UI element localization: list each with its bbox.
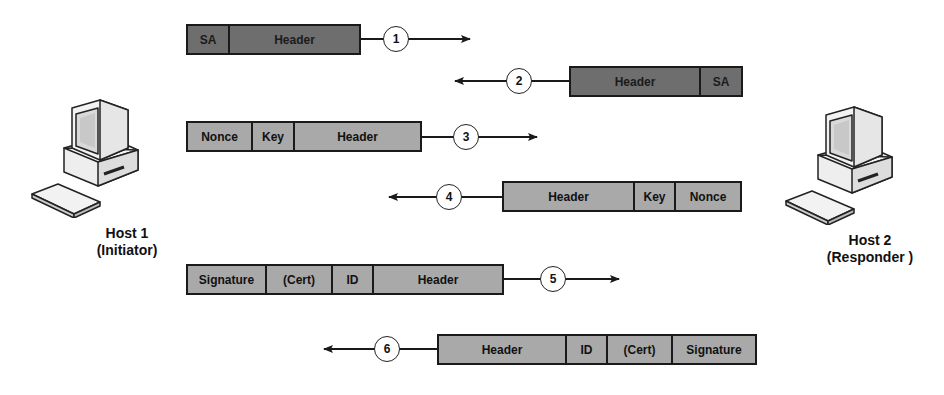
message-2-packet: Header SA <box>569 66 743 97</box>
field-header: Header <box>439 336 567 363</box>
computer-icon <box>782 105 897 225</box>
message-6-packet: Header ID (Cert) Signature <box>437 334 757 365</box>
field-header: Header <box>571 68 701 95</box>
host-1-role: (Initiator) <box>72 242 182 259</box>
computer-icon <box>28 98 143 218</box>
step-5-badge: 5 <box>540 266 566 292</box>
field-header: Header <box>504 183 635 210</box>
field-signature: Signature <box>673 336 755 363</box>
host-2-label: Host 2 (Responder ) <box>810 232 930 266</box>
field-key: Key <box>635 183 676 210</box>
field-sa: SA <box>701 68 741 95</box>
message-5-packet: Signature (Cert) ID Header <box>186 264 504 295</box>
step-2-badge: 2 <box>506 68 532 94</box>
field-signature: Signature <box>188 266 267 293</box>
step-4-badge: 4 <box>436 184 462 210</box>
field-key: Key <box>253 123 295 150</box>
step-3-badge: 3 <box>453 124 479 150</box>
host-1-name: Host 1 <box>72 225 182 242</box>
message-4-packet: Header Key Nonce <box>502 181 742 212</box>
field-sa: SA <box>188 26 230 53</box>
step-1-badge: 1 <box>383 26 409 52</box>
step-6-badge: 6 <box>374 336 400 362</box>
field-cert: (Cert) <box>267 266 333 293</box>
field-id: ID <box>333 266 374 293</box>
host-1-label: Host 1 (Initiator) <box>72 225 182 259</box>
host-2-name: Host 2 <box>810 232 930 249</box>
field-nonce: Nonce <box>676 183 740 210</box>
field-header: Header <box>374 266 502 293</box>
field-nonce: Nonce <box>188 123 253 150</box>
host-2-role: (Responder ) <box>810 249 930 266</box>
message-1-packet: SA Header <box>186 24 361 55</box>
field-cert: (Cert) <box>608 336 673 363</box>
diagram-canvas: SA Header 1 Header SA 2 Nonce Key Header… <box>0 0 944 395</box>
field-header: Header <box>295 123 420 150</box>
message-3-packet: Nonce Key Header <box>186 121 422 152</box>
field-id: ID <box>567 336 608 363</box>
field-header: Header <box>230 26 359 53</box>
